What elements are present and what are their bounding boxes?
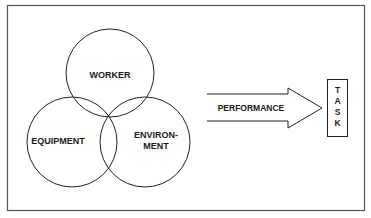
task-letter-t: T xyxy=(335,85,341,95)
task-letter-a: A xyxy=(334,96,340,106)
worker-label: WORKER xyxy=(90,70,131,80)
diagram-frame xyxy=(8,6,365,211)
performance-label: PERFORMANCE xyxy=(218,103,285,113)
environment-label-line2: MENT xyxy=(143,141,169,151)
diagram-canvas: WORKER EQUIPMENT ENVIRON- MENT PERFORMAN… xyxy=(0,0,371,218)
task-letter-k: K xyxy=(334,118,341,128)
environment-label-line1: ENVIRON- xyxy=(134,130,178,140)
task-letter-s: S xyxy=(335,107,341,117)
equipment-label: EQUIPMENT xyxy=(31,136,85,146)
